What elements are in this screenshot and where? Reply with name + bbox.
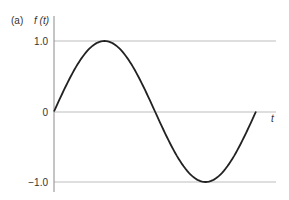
ytick-label-neg1: −1.0 [28, 177, 48, 188]
ytick-label-1: 1.0 [34, 36, 48, 47]
y-axis-label: f (t) [34, 15, 49, 26]
panel-label: (a) [11, 15, 23, 26]
sine-chart: (a) f (t) 1.0 0 −1.0 t [0, 0, 289, 200]
ytick-label-0: 0 [42, 107, 48, 118]
x-axis-label: t [271, 113, 275, 124]
